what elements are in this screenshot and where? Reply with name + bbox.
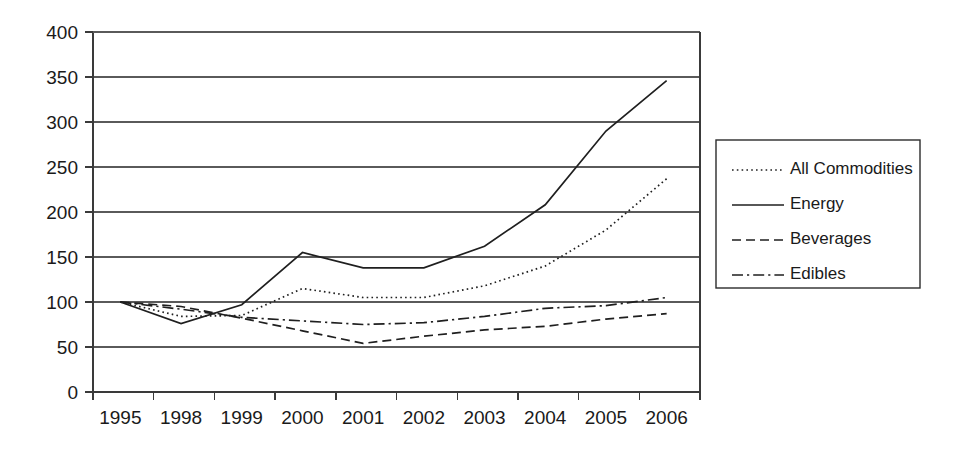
x-tick-label: 2001 (342, 407, 384, 428)
x-tick-label: 2004 (524, 407, 567, 428)
y-tick-label: 200 (46, 202, 78, 223)
y-tick-label: 400 (46, 22, 78, 43)
y-tick-label: 100 (46, 292, 78, 313)
y-tick-label: 250 (46, 157, 78, 178)
x-tick-label: 1995 (99, 407, 141, 428)
x-tick-label: 2003 (463, 407, 505, 428)
y-tick-label: 50 (57, 337, 78, 358)
legend-label-beverages: Beverages (790, 229, 871, 248)
x-tick-label: 2002 (403, 407, 445, 428)
legend-label-energy: Energy (790, 194, 844, 213)
y-tick-label: 150 (46, 247, 78, 268)
chart-legend: All CommoditiesEnergyBeveragesEdibles (716, 140, 920, 288)
y-tick-label: 300 (46, 112, 78, 133)
legend-label-edibles: Edibles (790, 264, 846, 283)
x-tick-label: 2005 (585, 407, 627, 428)
x-tick-label: 1999 (221, 407, 263, 428)
chart-canvas: 050100150200250300350400 199519981999200… (0, 0, 954, 450)
legend-label-all-commodities: All Commodities (790, 159, 913, 178)
line-chart: 050100150200250300350400 199519981999200… (0, 0, 954, 450)
y-tick-label: 0 (67, 382, 78, 403)
x-tick-label: 2006 (646, 407, 688, 428)
y-tick-label: 350 (46, 67, 78, 88)
x-tick-label: 2000 (281, 407, 323, 428)
x-tick-label: 1998 (160, 407, 202, 428)
